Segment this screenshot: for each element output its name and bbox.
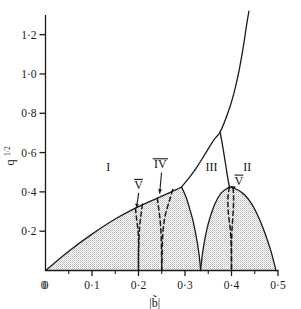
region-label-II: II — [243, 160, 251, 174]
curve-region-III-right-boundary — [220, 132, 229, 187]
y-tick-label: 0·2 — [21, 225, 37, 237]
phase-diagram-svg: 00·10·20·30·40·50·20·40·60·81·01·20 IIVV… — [0, 0, 301, 309]
shaded-region-left — [46, 187, 201, 271]
region-label-V: V — [235, 174, 244, 188]
x-tick-label: 0·5 — [270, 279, 286, 291]
x-tick-label: 0·2 — [131, 279, 147, 291]
y-tick-label: 1·2 — [21, 29, 37, 41]
region-label-IV: IV — [154, 157, 167, 171]
y-tick-label: 0·6 — [21, 147, 37, 159]
x-tick-label: 0·4 — [224, 279, 240, 291]
region-label-V: V — [134, 178, 143, 192]
x-tick-label: 0·3 — [177, 279, 193, 291]
region-label-III: III — [206, 160, 218, 174]
y-tick-label: 0·4 — [21, 186, 37, 198]
y-tick-label: 1·0 — [21, 68, 37, 80]
region-label-I: I — [106, 160, 110, 174]
y-axis-label-base: q — [3, 159, 17, 165]
x-tick-label: 0·1 — [84, 279, 100, 291]
origin-tick-label: 0 — [41, 279, 47, 291]
y-axis-label: q1/2 — [3, 146, 18, 165]
phase-diagram-figure: 00·10·20·30·40·50·20·40·60·81·01·20 IIVV… — [0, 0, 301, 309]
y-tick-label: 0·8 — [21, 107, 37, 119]
y-axis-label-exponent: 1/2 — [3, 146, 12, 156]
shaded-region-right — [201, 187, 276, 271]
x-axis-label: |b̃| — [149, 295, 160, 309]
